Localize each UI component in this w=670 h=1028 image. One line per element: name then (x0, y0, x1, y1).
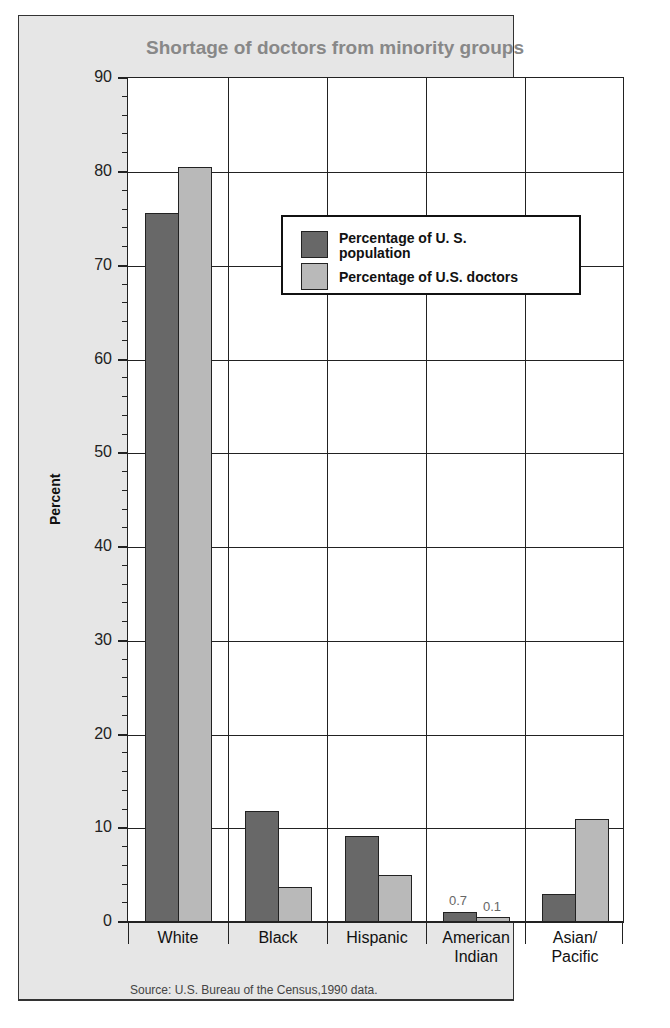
y-label: 40 (72, 537, 112, 555)
grid-vline (228, 78, 229, 923)
source-note: Source: U.S. Bureau of the Census,1990 d… (130, 983, 378, 997)
y-tick (118, 640, 128, 642)
x-label-asian-pacific: Asian/Pacific (525, 928, 625, 966)
y-label: 90 (72, 68, 112, 86)
bar-black-population (245, 811, 279, 922)
bar-asian-pacific-population (542, 894, 576, 922)
x-label-black: Black (228, 928, 328, 947)
y-label: 30 (72, 631, 112, 649)
bar-asian-pacific-doctors (575, 819, 609, 922)
x-label-american-indian: AmericanIndian (426, 928, 526, 966)
y-label: 20 (72, 725, 112, 743)
legend: Percentage of U. S.population Percentage… (281, 215, 581, 295)
y-label: 60 (72, 350, 112, 368)
grid-vline (525, 78, 526, 923)
grid-vline (327, 78, 328, 923)
y-tick (118, 265, 128, 267)
x-label-hispanic: Hispanic (327, 928, 427, 947)
bar-white-population (145, 213, 179, 922)
value-label: 0.1 (483, 899, 501, 914)
legend-swatch-doctors (301, 263, 328, 290)
x-label-white: White (128, 928, 228, 947)
x-axis (118, 921, 623, 923)
y-axis (127, 77, 128, 922)
bar-black-doctors (278, 887, 312, 922)
y-tick (118, 359, 128, 361)
bar-hispanic-doctors (378, 875, 412, 922)
y-tick (118, 734, 128, 736)
y-tick (118, 827, 128, 829)
y-tick (118, 546, 128, 548)
y-label: 10 (72, 818, 112, 836)
bar-white-doctors (178, 167, 212, 922)
y-tick (118, 452, 128, 454)
y-label: 50 (72, 443, 112, 461)
bar-hispanic-population (345, 836, 379, 922)
legend-swatch-population (301, 231, 328, 258)
legend-label-population: Percentage of U. S.population (339, 231, 467, 261)
grid-vline (426, 78, 427, 923)
y-label: 0 (72, 912, 112, 930)
y-tick (118, 171, 128, 173)
chart-title: Shortage of doctors from minority groups (0, 37, 670, 59)
y-label: 80 (72, 162, 112, 180)
y-label: 70 (72, 256, 112, 274)
y-tick (118, 77, 128, 79)
legend-label-doctors: Percentage of U.S. doctors (339, 270, 518, 285)
value-label: 0.7 (449, 893, 467, 908)
y-axis-title: Percent (47, 474, 63, 525)
